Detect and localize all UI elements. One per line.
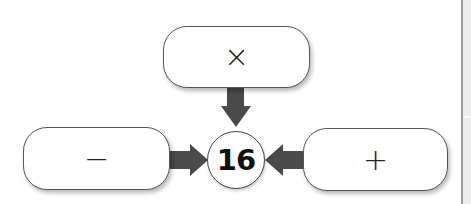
multiply-symbol: × bbox=[224, 42, 249, 72]
arrow-down-icon bbox=[221, 88, 251, 127]
plus-symbol: + bbox=[363, 145, 388, 175]
arrow-left-icon bbox=[265, 144, 303, 176]
multiply-box: × bbox=[163, 26, 310, 88]
minus-symbol: − bbox=[84, 144, 109, 174]
center-number: 16 bbox=[217, 143, 255, 177]
subtract-box: − bbox=[23, 127, 170, 190]
add-box: + bbox=[303, 128, 448, 191]
arrow-right-icon bbox=[170, 144, 208, 176]
center-number-circle: 16 bbox=[207, 131, 265, 189]
